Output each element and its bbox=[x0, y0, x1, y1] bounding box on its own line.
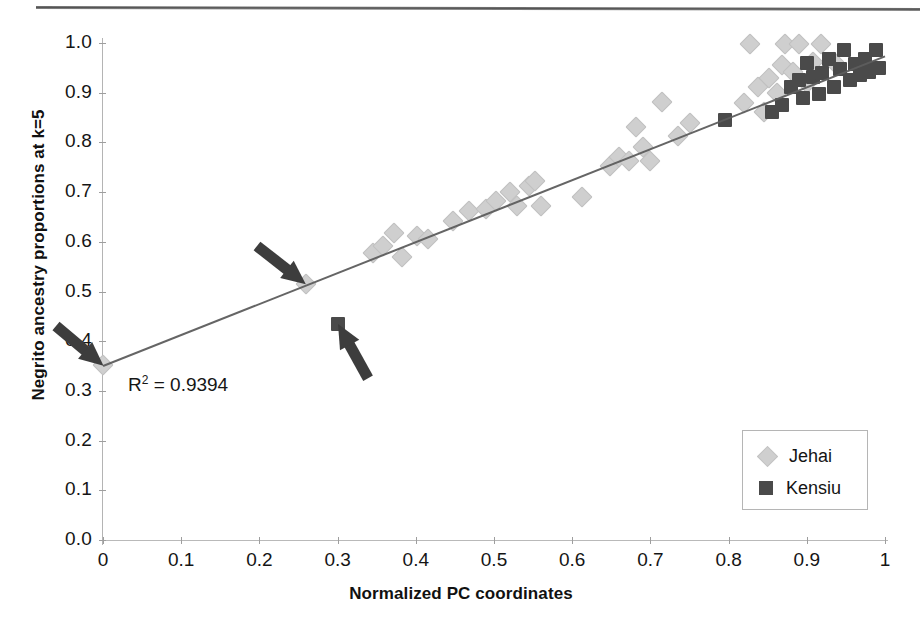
legend-label-kensiu: Kensiu bbox=[786, 479, 841, 497]
data-point-kensiu bbox=[827, 80, 841, 94]
y-axis-tick-label: 0.1 bbox=[40, 478, 92, 500]
x-axis-tick bbox=[650, 537, 651, 544]
data-point-kensiu bbox=[812, 87, 826, 101]
y-axis-tick bbox=[99, 43, 106, 44]
y-axis-tick bbox=[99, 192, 106, 193]
data-point-jehai bbox=[626, 117, 647, 138]
legend-label-jehai: Jehai bbox=[789, 447, 832, 465]
data-point-jehai bbox=[530, 195, 551, 216]
data-point-jehai bbox=[571, 186, 592, 207]
r-squared-annotation: R2 = 0.9394 bbox=[128, 373, 228, 396]
y-axis-tick bbox=[99, 391, 106, 392]
x-axis-title: Normalized PC coordinates bbox=[0, 584, 922, 604]
x-axis-tick-label: 1 bbox=[855, 549, 915, 571]
x-axis-tick-label: 0.6 bbox=[542, 549, 602, 571]
data-point-kensiu bbox=[775, 98, 789, 112]
y-axis-tick-label: 0.0 bbox=[40, 528, 92, 550]
x-axis-tick-label: 0.8 bbox=[699, 549, 759, 571]
y-axis-tick bbox=[99, 142, 106, 143]
data-point-kensiu bbox=[800, 56, 814, 70]
x-axis-tick bbox=[103, 537, 104, 544]
data-point-kensiu bbox=[837, 43, 851, 57]
x-axis-tick-label: 0.3 bbox=[308, 549, 368, 571]
x-axis-tick bbox=[885, 537, 886, 544]
x-axis-tick bbox=[259, 537, 260, 544]
x-axis-tick bbox=[494, 537, 495, 544]
r-squared-prefix: R bbox=[128, 374, 142, 395]
arrow-to-kensiu-outlier bbox=[318, 304, 388, 398]
data-point-kensiu bbox=[869, 43, 883, 57]
x-axis-tick bbox=[572, 537, 573, 544]
y-axis-tick bbox=[99, 490, 106, 491]
legend-item-kensiu[interactable]: Kensiu bbox=[743, 472, 867, 504]
data-point-jehai bbox=[740, 33, 761, 54]
x-axis-line bbox=[102, 540, 888, 541]
x-axis-tick-label: 0.2 bbox=[229, 549, 289, 571]
square-marker-icon bbox=[759, 481, 773, 495]
x-axis-tick bbox=[181, 537, 182, 544]
scatter-plot-figure: 0.00.10.20.30.40.50.60.70.80.91.0 00.10.… bbox=[0, 0, 922, 625]
r-squared-value: = 0.9394 bbox=[148, 374, 228, 395]
y-axis-tick bbox=[99, 292, 106, 293]
x-axis-tick bbox=[416, 537, 417, 544]
x-axis-tick-label: 0.5 bbox=[464, 549, 524, 571]
x-axis-tick bbox=[338, 537, 339, 544]
data-point-kensiu bbox=[792, 73, 806, 87]
data-point-jehai bbox=[788, 33, 809, 54]
legend-box: Jehai Kensiu bbox=[742, 430, 868, 510]
x-axis-tick bbox=[807, 537, 808, 544]
x-axis-tick-label: 0.9 bbox=[777, 549, 837, 571]
data-point-kensiu bbox=[796, 91, 810, 105]
arrow-to-jehai-outlier bbox=[237, 226, 326, 304]
legend-item-jehai[interactable]: Jehai bbox=[743, 440, 867, 472]
data-point-jehai bbox=[652, 91, 673, 112]
data-point-kensiu bbox=[872, 61, 886, 75]
diamond-marker-icon bbox=[757, 445, 778, 466]
trendline bbox=[103, 55, 886, 366]
x-axis-tick-label: 0.1 bbox=[151, 549, 211, 571]
y-axis-tick bbox=[99, 93, 106, 94]
x-axis-tick bbox=[729, 537, 730, 544]
x-axis-tick-label: 0.4 bbox=[386, 549, 446, 571]
y-axis-tick bbox=[99, 441, 106, 442]
page-top-rule bbox=[36, 6, 920, 11]
x-axis-tick-label: 0.7 bbox=[620, 549, 680, 571]
y-axis-title: Negrito ancestry proportions at k=5 bbox=[29, 45, 49, 465]
y-axis-tick bbox=[99, 242, 106, 243]
x-axis-tick-label: 0 bbox=[73, 549, 133, 571]
